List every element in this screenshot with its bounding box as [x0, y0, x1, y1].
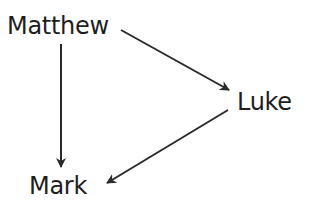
node-luke: Luke — [237, 90, 292, 114]
node-mark: Mark — [29, 174, 87, 198]
edge-matthew-to-luke — [121, 30, 229, 90]
edge-luke-to-mark — [107, 110, 228, 183]
node-matthew: Matthew — [7, 14, 109, 38]
